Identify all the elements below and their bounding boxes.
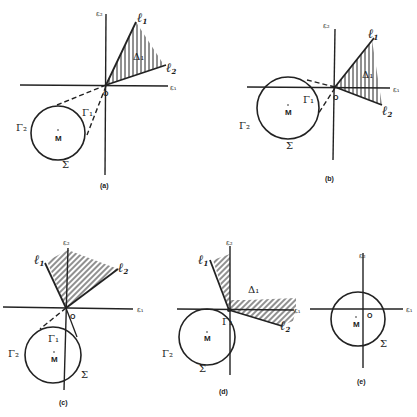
label-e1: ε₁ bbox=[137, 306, 144, 314]
label-e1: ε₁ bbox=[393, 86, 400, 94]
label-l2: ℓ2 bbox=[382, 103, 393, 119]
label-origin: O bbox=[70, 313, 76, 320]
label-origin: O bbox=[333, 94, 339, 101]
label-delta1: Δ₁ bbox=[248, 284, 259, 295]
tangent-dash-1 bbox=[57, 85, 106, 105]
axis-e1 bbox=[177, 309, 294, 310]
panel-a: ε₂ ε₁ O ℓ1 ℓ2 Δ₁ Γ₁ Γ₂ Σ M (a) bbox=[16, 10, 177, 190]
caption-e: (e) bbox=[357, 378, 366, 386]
label-sigma: Σ bbox=[380, 338, 387, 349]
label-origin: O bbox=[367, 312, 373, 319]
label-sigma: Σ bbox=[62, 159, 69, 170]
center-dot bbox=[206, 331, 208, 333]
tangent-dash-1 bbox=[40, 308, 66, 329]
label-sigma: Σ bbox=[81, 369, 88, 380]
origin-dot bbox=[227, 308, 231, 312]
label-e1: ε₁ bbox=[170, 84, 177, 92]
axis-e1 bbox=[247, 87, 390, 88]
label-delta1: Δ₁ bbox=[133, 51, 144, 62]
caption-d: (d) bbox=[219, 388, 228, 396]
panel-d: ε₂ ε₁ ℓ1 ℓ2 Δ₁ Γ₁ Γ₂ Σ M (d) bbox=[162, 239, 301, 396]
caption-b: (b) bbox=[325, 175, 334, 183]
label-delta1: Δ₁ bbox=[362, 69, 373, 80]
center-dot bbox=[287, 104, 289, 106]
circle-sigma bbox=[31, 106, 85, 160]
label-gamma2: Γ₂ bbox=[16, 122, 27, 133]
center-dot bbox=[355, 316, 357, 318]
caption-a: (a) bbox=[100, 182, 109, 190]
label-gamma2: Γ₂ bbox=[162, 348, 173, 359]
caption-c: (c) bbox=[59, 399, 68, 407]
label-m: M bbox=[51, 355, 58, 364]
label-sigma: Σ bbox=[199, 363, 206, 374]
label-e2: ε₂ bbox=[63, 239, 70, 247]
center-dot bbox=[57, 129, 59, 131]
label-m: M bbox=[285, 108, 292, 117]
label-m: M bbox=[353, 320, 360, 329]
center-dot bbox=[53, 351, 55, 353]
label-l1: ℓ1 bbox=[34, 252, 44, 268]
label-e2: ε₂ bbox=[323, 22, 330, 30]
panel-c: ε₂ ε₁ O ℓ1 ℓ2 Γ₁ Γ₂ Σ M (c) bbox=[3, 239, 144, 407]
label-gamma1: Γ₁ bbox=[48, 333, 59, 344]
label-l1: ℓ1 bbox=[198, 252, 208, 268]
figure-canvas: ε₂ ε₁ O ℓ1 ℓ2 Δ₁ Γ₁ Γ₂ Σ M (a) ε₂ ε₁ O ℓ… bbox=[0, 0, 417, 417]
label-gamma1: Γ₁ bbox=[222, 316, 233, 327]
panel-b: ε₂ ε₁ O ℓ1 ℓ2 Δ₁ Γ₁ Γ₂ Σ M (b) bbox=[239, 22, 400, 183]
tangent-dash-1 bbox=[307, 80, 335, 87]
label-gamma2: Γ₂ bbox=[8, 348, 19, 359]
label-gamma2: Γ₂ bbox=[239, 120, 250, 131]
label-e2: ε₂ bbox=[96, 10, 103, 18]
label-m: M bbox=[204, 334, 211, 343]
label-l2: ℓ2 bbox=[166, 60, 177, 76]
label-e2: ε₂ bbox=[359, 252, 366, 260]
label-origin: O bbox=[103, 90, 109, 97]
axis-e1 bbox=[20, 85, 168, 86]
region-delta1-shading bbox=[47, 250, 118, 308]
label-l2: ℓ2 bbox=[118, 260, 129, 276]
label-e1: ε₁ bbox=[294, 307, 301, 315]
label-l1: ℓ1 bbox=[368, 26, 378, 42]
label-m: M bbox=[55, 134, 62, 143]
label-sigma: Σ bbox=[286, 140, 293, 151]
circle-sigma bbox=[331, 292, 385, 346]
label-l1: ℓ1 bbox=[137, 10, 147, 26]
label-e1: ε₁ bbox=[406, 306, 413, 314]
panel-e: ε₂ ε₁ O Σ M (e) bbox=[310, 252, 413, 386]
label-e2: ε₂ bbox=[226, 239, 233, 247]
label-gamma1: Γ₁ bbox=[82, 107, 93, 118]
label-gamma1: Γ₁ bbox=[303, 94, 314, 105]
tangent-dash-2 bbox=[318, 88, 335, 114]
